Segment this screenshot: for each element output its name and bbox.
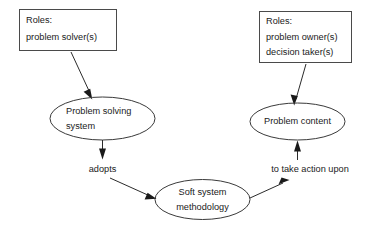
arrow-methodology-to-action-line <box>250 183 283 198</box>
arrow-adopts-to-methodology-line <box>110 178 150 196</box>
box-roles-problem-solver-line2: problem solver(s) <box>26 32 97 42</box>
arrow-solver-to-system-line <box>71 52 90 93</box>
ellipse-soft-system-methodology <box>155 180 250 220</box>
arrow-system-to-adopts-head <box>99 149 106 160</box>
box-roles-problem-owner-line1: Roles: <box>266 16 292 26</box>
arrow-owner-to-content-head <box>291 95 298 106</box>
edge-label-adopts: adopts <box>89 164 117 174</box>
diagram-root: Roles: problem solver(s) Roles: problem … <box>0 0 370 236</box>
arrow-action-to-content-head <box>294 141 301 152</box>
diagram-canvas: Roles: problem solver(s) Roles: problem … <box>0 0 370 236</box>
ellipse-problem-content-line1: Problem content <box>264 116 331 126</box>
edge-label-to-take-action-upon: to take action upon <box>271 164 349 174</box>
box-roles-problem-owner-line3: decision taker(s) <box>266 47 333 57</box>
box-roles-problem-owner-line2: problem owner(s) <box>266 32 337 42</box>
box-roles-problem-solver-line1: Roles: <box>26 15 52 25</box>
arrow-methodology-to-action-head <box>279 177 290 184</box>
ellipse-soft-system-methodology-line1: Soft system <box>179 187 227 197</box>
arrow-adopts-to-methodology-head <box>145 193 157 200</box>
ellipse-soft-system-methodology-line2: methodology <box>176 202 229 212</box>
ellipse-problem-solving-system-line2: system <box>66 121 95 131</box>
arrow-owner-to-content-line <box>296 64 306 99</box>
ellipse-problem-solving-system <box>50 97 155 140</box>
ellipse-problem-solving-system-line1: Problem solving <box>66 106 131 116</box>
